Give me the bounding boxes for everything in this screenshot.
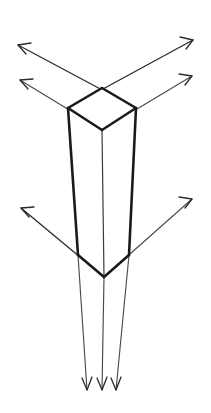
isometric-prism-diagram [0, 0, 211, 413]
arrowhead-mid-right [179, 197, 192, 208]
ray-down-center [102, 277, 104, 390]
ray-down-right [116, 255, 129, 390]
arrowhead-mid-left [21, 207, 34, 217]
ray-down-left [78, 255, 87, 390]
diagram-canvas [0, 0, 211, 413]
